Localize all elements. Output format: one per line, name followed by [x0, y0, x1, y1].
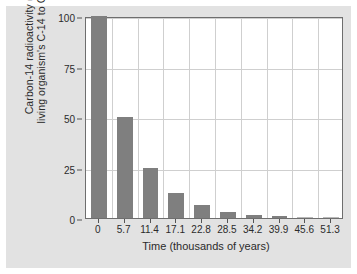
bar: [143, 168, 159, 219]
y-tick-label: 50: [64, 114, 75, 125]
x-tick-mark: [253, 219, 254, 223]
x-tick-label: 5.7: [117, 224, 131, 235]
bar: [91, 16, 107, 218]
x-tick-mark: [227, 219, 228, 223]
bar: [117, 117, 133, 218]
x-tick-label: 34.2: [243, 224, 262, 235]
x-tick-label: 11.4: [140, 224, 159, 235]
y-axis-title: Carbon-14 radioactivity (as % of living …: [18, 0, 54, 138]
x-tick-label: 51.3: [320, 224, 339, 235]
x-tick-mark: [330, 219, 331, 223]
y-tick-mark: [77, 169, 82, 170]
x-tick-mark: [175, 219, 176, 223]
bar: [194, 205, 210, 218]
x-tick-label: 45.6: [295, 224, 314, 235]
y-tick-label: 25: [64, 164, 75, 175]
x-tick-label: 39.9: [269, 224, 288, 235]
x-tick-mark: [201, 219, 202, 223]
x-tick-label: 17.1: [166, 224, 185, 235]
x-tick-mark: [279, 219, 280, 223]
y-tick-label: 0: [69, 215, 75, 226]
x-tick-mark: [124, 219, 125, 223]
x-axis-title: Time (thousands of years): [66, 240, 346, 252]
bar: [246, 215, 262, 218]
y-tick-label: 75: [64, 63, 75, 74]
bar: [323, 217, 339, 218]
y-tick-mark: [77, 119, 82, 120]
bar-series: [86, 18, 342, 218]
x-axis-ticks: 05.711.417.122.828.534.239.945.651.3: [85, 219, 343, 241]
x-tick-label: 22.8: [191, 224, 210, 235]
x-tick-mark: [150, 219, 151, 223]
plot-area: [85, 17, 343, 219]
bar: [297, 217, 313, 218]
y-axis-ticks: 1007550250: [54, 18, 82, 220]
bar: [220, 212, 236, 218]
y-tick-mark: [77, 18, 82, 19]
x-tick-label: 0: [95, 224, 101, 235]
y-tick-mark: [77, 220, 82, 221]
bar: [272, 216, 288, 218]
y-tick-label: 100: [58, 13, 75, 24]
x-tick-mark: [98, 219, 99, 223]
y-tick-mark: [77, 68, 82, 69]
y-axis-title-line-2: living organism's C-14 to C-12 ratio): [36, 0, 48, 123]
bar: [168, 193, 184, 218]
figure-panel: Carbon-14 radioactivity (as % of living …: [6, 6, 351, 268]
x-tick-label: 28.5: [217, 224, 236, 235]
x-tick-mark: [304, 219, 305, 223]
